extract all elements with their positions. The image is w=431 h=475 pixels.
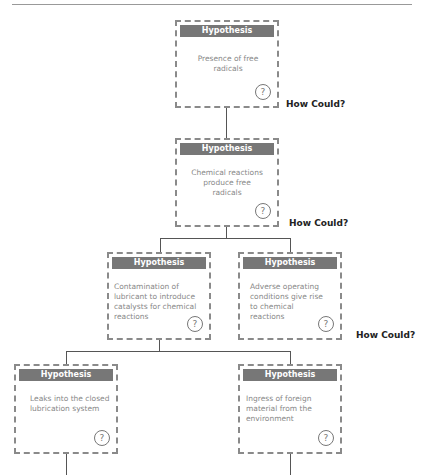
question-icon[interactable]: ? [94,430,110,446]
connector [159,340,160,351]
node-title: Hypothesis [19,369,113,381]
connector [66,454,67,475]
question-icon[interactable]: ? [318,316,334,332]
node-text: Chemical reactions produce free radicals [191,168,263,198]
connector [66,351,67,364]
node-text: Adverse operating conditions give rise t… [250,282,330,322]
connector [290,238,291,252]
node-title: Hypothesis [180,143,274,155]
question-icon[interactable]: ? [255,84,271,100]
connector [66,351,291,352]
how-could-label: How Could? [356,330,415,340]
connector [290,454,291,475]
connector [226,108,227,138]
node-text: Ingress of foreign material from the env… [246,394,334,424]
question-icon[interactable]: ? [255,203,271,219]
hypothesis-node-5[interactable]: Hypothesis Leaks into the closed lubrica… [14,364,118,454]
hypothesis-node-3[interactable]: Hypothesis Contamination of lubricant to… [107,252,211,340]
node-title: Hypothesis [243,257,337,269]
node-title: Hypothesis [243,369,337,381]
hypothesis-node-1[interactable]: Hypothesis Presence of free radicals ? [175,20,279,108]
question-icon[interactable]: ? [318,430,334,446]
hypothesis-node-2[interactable]: Hypothesis Chemical reactions produce fr… [175,138,279,227]
how-could-label: How Could? [286,99,345,109]
connector [226,227,227,238]
hypothesis-node-6[interactable]: Hypothesis Ingress of foreign material f… [238,364,342,454]
node-text: Leaks into the closed lubrication system [30,394,110,414]
node-text: Presence of free radicals [185,54,271,74]
node-title: Hypothesis [180,25,274,37]
connector [290,351,291,364]
connector [160,238,161,252]
header-rule [12,4,412,5]
node-text: Contamination of lubricant to introduce … [114,282,203,322]
question-icon[interactable]: ? [187,316,203,332]
connector [160,238,291,239]
node-title: Hypothesis [112,257,206,269]
hypothesis-node-4[interactable]: Hypothesis Adverse operating conditions … [238,252,342,340]
how-could-label: How Could? [289,218,348,228]
